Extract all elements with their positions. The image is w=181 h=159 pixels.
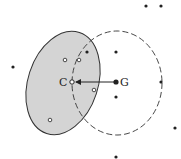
filled-dot [144, 4, 147, 7]
label-c: C [59, 76, 67, 89]
hollow-dot [48, 118, 52, 122]
filled-dot [159, 4, 162, 7]
filled-dot [173, 126, 176, 129]
point-c-marker [70, 80, 74, 84]
hollow-dot [63, 58, 67, 62]
hollow-dot [77, 58, 81, 62]
filled-dot [114, 155, 117, 158]
filled-dot [159, 80, 162, 83]
filled-dot [114, 50, 117, 53]
filled-dot [11, 65, 14, 68]
hollow-dot [92, 88, 96, 92]
point-g-marker [113, 79, 118, 84]
filled-dot [85, 50, 88, 53]
filled-dot [114, 95, 117, 98]
diagram-canvas: C G [0, 0, 181, 159]
label-g: G [120, 76, 129, 89]
